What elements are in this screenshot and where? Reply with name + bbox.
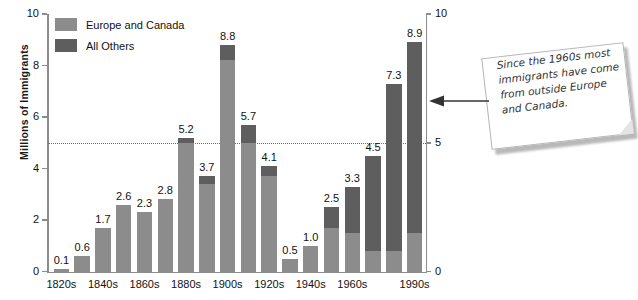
bar-value-label: 4.5 xyxy=(365,141,380,153)
bar-segment-all-others xyxy=(261,166,276,176)
legend-label: All Others xyxy=(86,40,134,52)
bar-segment-europe-canada xyxy=(345,233,360,272)
bar-segment-europe-canada xyxy=(158,199,173,271)
bar-segment-europe-canada xyxy=(282,259,297,272)
legend-item[interactable]: Europe and Canada xyxy=(55,16,184,33)
x-tick-label-1940s: 1940s xyxy=(296,278,326,290)
bar-segment-all-others xyxy=(324,207,339,228)
bar-value-label: 0.1 xyxy=(54,254,69,266)
bar-value-label: 0.6 xyxy=(75,241,90,253)
x-tick-label-1860s: 1860s xyxy=(130,278,160,290)
bar-value-label: 5.2 xyxy=(178,123,193,135)
bar-segment-europe-canada xyxy=(241,143,256,272)
y-tick-mark-right xyxy=(426,271,431,273)
bar-value-label: 0.5 xyxy=(282,244,297,256)
x-tick-label-1820s: 1820s xyxy=(46,278,76,290)
legend-swatch xyxy=(55,39,77,52)
bar-value-label: 5.7 xyxy=(241,110,256,122)
bar-segment-europe-canada xyxy=(261,176,276,271)
bar-1830s[interactable] xyxy=(74,256,89,271)
callout-fold-corner xyxy=(617,119,634,136)
bar-segment-europe-canada xyxy=(386,251,401,272)
y-tick-mark xyxy=(42,116,47,118)
bar-segment-europe-canada xyxy=(199,184,214,272)
x-tick-label-1990s: 1990s xyxy=(400,278,430,290)
bar-segment-all-others xyxy=(220,45,235,60)
bar-value-label: 7.3 xyxy=(386,69,401,81)
y-tick-label: 2 xyxy=(0,213,39,225)
annotation-callout: Since the 1960s most immigrants have com… xyxy=(486,50,629,142)
bar-value-label: 2.3 xyxy=(137,197,152,209)
bar-1980s[interactable] xyxy=(386,84,401,272)
bar-1820s[interactable] xyxy=(54,269,69,272)
legend-item[interactable]: All Others xyxy=(55,37,184,54)
bar-segment-europe-canada xyxy=(365,251,380,272)
bar-1900s[interactable] xyxy=(220,45,235,272)
y-tick-mark xyxy=(42,13,47,15)
bar-segment-all-others xyxy=(178,138,193,143)
y-tick-mark xyxy=(42,219,47,221)
bar-value-label: 4.1 xyxy=(262,151,277,163)
x-tick-label-1880s: 1880s xyxy=(171,278,201,290)
bar-segment-europe-canada xyxy=(324,228,339,272)
bar-segment-all-others xyxy=(345,187,360,233)
x-tick-label-1900s: 1900s xyxy=(213,278,243,290)
bar-1930s[interactable] xyxy=(282,259,297,272)
bar-1950s[interactable] xyxy=(324,207,339,271)
chart-legend: Europe and CanadaAll Others xyxy=(55,16,184,58)
y-tick-mark xyxy=(42,168,47,170)
bar-segment-europe-canada xyxy=(303,246,318,272)
bar-1890s[interactable] xyxy=(199,176,214,271)
x-tick-label-1920s: 1920s xyxy=(254,278,284,290)
bar-value-label: 3.3 xyxy=(345,172,360,184)
x-tick-label-1960s: 1960s xyxy=(337,278,367,290)
bar-segment-europe-canada xyxy=(220,60,235,271)
y-tick-label: 10 xyxy=(0,7,39,19)
bar-1990s[interactable] xyxy=(407,42,422,271)
y-tick-label: 4 xyxy=(0,162,39,174)
y-tick-label: 8 xyxy=(0,59,39,71)
x-tick-label-1840s: 1840s xyxy=(88,278,118,290)
y-axis-title: Millions of Immigrants xyxy=(18,32,30,172)
bar-1970s[interactable] xyxy=(365,156,380,272)
bar-value-label: 8.8 xyxy=(220,30,235,42)
bar-segment-europe-canada xyxy=(54,269,69,272)
bar-1960s[interactable] xyxy=(345,187,360,272)
y-tick-label-right: 10 xyxy=(435,7,475,19)
bar-value-label: 3.7 xyxy=(199,161,214,173)
y-tick-mark-right xyxy=(426,13,431,15)
bar-value-label: 8.9 xyxy=(407,27,422,39)
bar-segment-all-others xyxy=(199,176,214,184)
y-tick-mark xyxy=(42,65,47,67)
bar-segment-europe-canada xyxy=(407,233,422,272)
y-tick-label: 0 xyxy=(0,265,39,277)
bar-segment-europe-canada xyxy=(74,256,89,271)
bar-segment-all-others xyxy=(241,125,256,143)
bar-1860s[interactable] xyxy=(137,212,152,271)
bar-segment-europe-canada xyxy=(178,143,193,272)
bar-1940s[interactable] xyxy=(303,246,318,272)
y-tick-mark-right xyxy=(426,142,431,144)
bar-segment-europe-canada xyxy=(137,212,152,271)
bar-1910s[interactable] xyxy=(241,125,256,272)
bar-1870s[interactable] xyxy=(158,199,173,271)
bar-value-label: 1.0 xyxy=(303,231,318,243)
y-tick-mark xyxy=(42,271,47,273)
bar-1840s[interactable] xyxy=(95,228,110,272)
bar-segment-all-others xyxy=(365,156,380,251)
y-tick-label-right: 5 xyxy=(435,136,475,148)
legend-label: Europe and Canada xyxy=(86,19,184,31)
bar-segment-europe-canada xyxy=(116,205,131,272)
bar-value-label: 1.7 xyxy=(95,213,110,225)
legend-swatch xyxy=(55,18,77,31)
bar-value-label: 2.8 xyxy=(158,184,173,196)
bar-segment-all-others xyxy=(407,42,422,233)
bar-1880s[interactable] xyxy=(178,138,193,272)
bottom-axis-line xyxy=(47,272,427,274)
y-tick-label: 6 xyxy=(0,110,39,122)
bar-1920s[interactable] xyxy=(261,166,276,272)
bar-1850s[interactable] xyxy=(116,205,131,272)
bar-segment-all-others xyxy=(386,84,401,251)
bar-segment-europe-canada xyxy=(95,228,110,272)
